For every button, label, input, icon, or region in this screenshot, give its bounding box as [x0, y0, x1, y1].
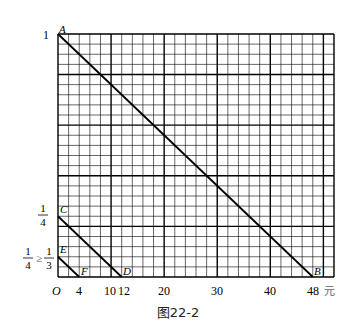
x-tick-4: 4	[76, 284, 82, 298]
origin-label: O	[52, 284, 61, 298]
x-unit-label: 元	[324, 285, 335, 298]
point-label-b: B	[314, 265, 321, 277]
x-tick-30: 30	[211, 284, 223, 298]
x-tick-12: 12	[118, 284, 130, 298]
x-tick-20: 20	[158, 284, 170, 298]
svg-text:3: 3	[46, 259, 52, 271]
svg-text:1: 1	[25, 245, 31, 257]
y-label-e: 1 4 ≥ 1 3	[23, 245, 54, 271]
svg-text:1: 1	[40, 202, 46, 214]
y-label-one: 1	[43, 28, 49, 42]
grid	[58, 34, 334, 277]
point-label-e: E	[59, 243, 67, 255]
point-label-c: C	[60, 203, 68, 215]
svg-text:≥: ≥	[36, 252, 42, 264]
svg-text:4: 4	[40, 216, 46, 228]
point-label-d: D	[122, 265, 131, 277]
x-tick-10: 10	[104, 284, 116, 298]
figure-caption: 图22-2	[157, 305, 200, 320]
x-tick-40: 40	[264, 284, 276, 298]
y-label-quarter: 1 4	[38, 202, 48, 228]
point-label-a: A	[58, 23, 66, 35]
point-label-f: F	[80, 265, 88, 277]
diagram-figure: 1 1 4 1 4 ≥ 1 3 A B C D E F O 4 10 12 20…	[0, 0, 356, 328]
x-tick-48: 48	[307, 284, 319, 298]
svg-text:4: 4	[25, 259, 31, 271]
svg-text:1: 1	[46, 245, 52, 257]
